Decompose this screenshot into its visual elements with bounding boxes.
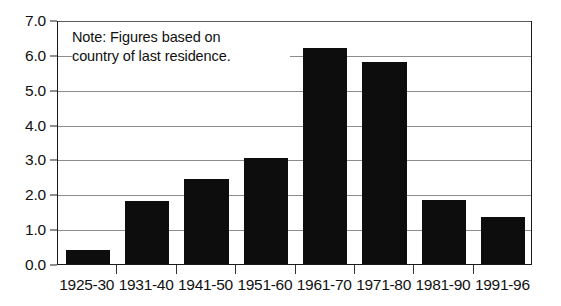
y-axis-tick-6.0 <box>50 55 57 56</box>
y-axis-label-2.0: 2.0 <box>25 186 46 204</box>
y-axis-tick-7.0 <box>50 21 57 22</box>
x-axis-tick-7 <box>473 265 474 274</box>
x-axis-label-1941-50: 1941-50 <box>178 276 233 294</box>
x-axis-label-1991-96: 1991-96 <box>475 276 530 294</box>
x-axis-label-1971-80: 1971-80 <box>356 276 411 294</box>
y-axis-tick-3.0 <box>50 160 57 161</box>
note-annotation: Note: Figures based on country of last r… <box>72 27 290 67</box>
bar-1951-60 <box>244 158 288 264</box>
y-axis-tick-4.0 <box>50 125 57 126</box>
note-line-2: country of last residence. <box>72 47 287 66</box>
y-axis-label-6.0: 6.0 <box>25 47 46 65</box>
y-axis-label-4.0: 4.0 <box>25 117 46 135</box>
y-axis-tick-1.0 <box>50 230 57 231</box>
x-axis-tick-3 <box>235 265 236 274</box>
bar-1925-30 <box>66 250 110 264</box>
x-axis-tick-6 <box>413 265 414 274</box>
x-axis-label-1961-70: 1961-70 <box>297 276 352 294</box>
bar-1961-70 <box>303 48 347 264</box>
y-axis-label-1.0: 1.0 <box>25 221 46 239</box>
x-axis-tick-5 <box>354 265 355 274</box>
bar-chart-figure: 0.01.02.03.04.05.06.07.0 1925-301931-401… <box>0 0 561 306</box>
x-axis-labels: 1925-301931-401941-501951-601961-701971-… <box>0 276 561 306</box>
x-axis-label-1925-30: 1925-30 <box>59 276 114 294</box>
x-axis-tick-1 <box>116 265 117 274</box>
y-axis-label-5.0: 5.0 <box>25 82 46 100</box>
y-axis-label-3.0: 3.0 <box>25 151 46 169</box>
x-axis-tick-4 <box>295 265 296 274</box>
note-line-1: Note: Figures based on <box>72 28 287 47</box>
y-axis-tick-2.0 <box>50 195 57 196</box>
y-axis-tick-5.0 <box>50 90 57 91</box>
bar-1991-96 <box>481 217 525 264</box>
x-axis-label-1981-90: 1981-90 <box>416 276 471 294</box>
x-axis-tick-2 <box>176 265 177 274</box>
y-axis: 0.01.02.03.04.05.06.07.0 <box>0 0 57 306</box>
y-axis-label-7.0: 7.0 <box>25 12 46 30</box>
bar-1971-80 <box>362 62 406 264</box>
x-axis-label-1951-60: 1951-60 <box>237 276 292 294</box>
bar-1941-50 <box>184 179 228 264</box>
x-axis-label-1931-40: 1931-40 <box>119 276 174 294</box>
bar-1931-40 <box>125 201 169 264</box>
bar-1981-90 <box>422 200 466 264</box>
